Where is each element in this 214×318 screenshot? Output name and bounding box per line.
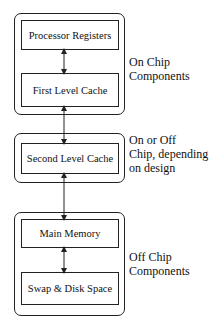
connector-arrows [0,0,214,318]
